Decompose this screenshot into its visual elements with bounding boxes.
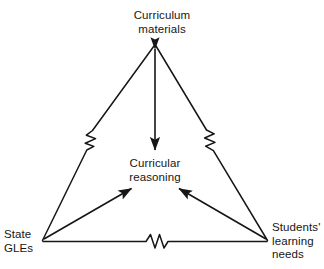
- node-label-curricular-reasoning: Curricular reasoning: [105, 157, 205, 184]
- node-label-students-learning-needs: Students' learning needs: [272, 221, 324, 262]
- edge-left-line: [43, 46, 155, 241]
- diagram-canvas: Curriculum materials Curricular reasonin…: [0, 0, 324, 269]
- edge-bottom-line: [43, 235, 267, 249]
- node-label-state-gles: State GLEs: [4, 228, 56, 255]
- edge-right-line: [156, 46, 268, 241]
- arrow-state-gles-to-curricular-reasoning: [44, 189, 132, 240]
- node-label-curriculum-materials: Curriculum materials: [112, 9, 212, 36]
- arrow-students-needs-to-curricular-reasoning: [179, 189, 266, 240]
